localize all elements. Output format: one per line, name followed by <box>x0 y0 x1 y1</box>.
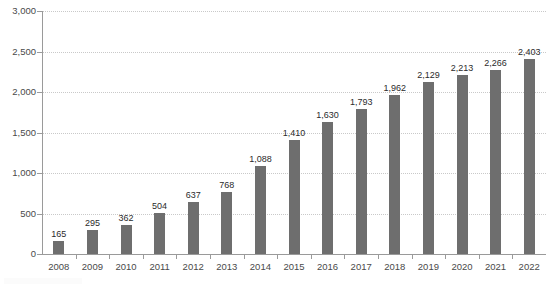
y-axis-tick-label: 2,500 <box>0 47 36 57</box>
bar-value-label: 2,403 <box>504 47 554 57</box>
y-axis-tick <box>37 52 42 53</box>
y-axis-tick <box>37 254 42 255</box>
bar-value-label: 1,962 <box>370 83 420 93</box>
y-axis-tick-label: 500 <box>0 209 36 219</box>
y-axis-tick <box>37 173 42 174</box>
gridline <box>42 92 546 93</box>
x-axis-tick <box>210 254 211 259</box>
bar[interactable] <box>457 75 468 254</box>
gridline <box>42 11 546 12</box>
y-axis-tick-label: 1,500 <box>0 128 36 138</box>
bar[interactable] <box>423 82 434 254</box>
y-axis-tick <box>37 214 42 215</box>
bar-value-label: 165 <box>34 229 84 239</box>
x-axis-tick <box>277 254 278 259</box>
bar-value-label: 768 <box>202 180 252 190</box>
x-axis-tick <box>479 254 480 259</box>
bar[interactable] <box>255 166 266 254</box>
bar[interactable] <box>389 95 400 254</box>
x-axis-tick <box>512 254 513 259</box>
bar[interactable] <box>289 140 300 254</box>
bar[interactable] <box>322 122 333 254</box>
y-axis-line <box>42 11 43 255</box>
x-axis-tick <box>412 254 413 259</box>
bar-value-label: 1,630 <box>303 110 353 120</box>
bar[interactable] <box>188 202 199 254</box>
bar[interactable] <box>490 70 501 254</box>
x-axis-tick <box>445 254 446 259</box>
bar-value-label: 504 <box>135 201 185 211</box>
bar[interactable] <box>524 59 535 254</box>
bar-value-label: 637 <box>168 190 218 200</box>
source-note-cropped <box>4 278 82 284</box>
bar[interactable] <box>53 241 64 254</box>
bar-value-label: 1,088 <box>235 154 285 164</box>
bar[interactable] <box>356 109 367 254</box>
x-axis-tick <box>378 254 379 259</box>
bar-chart: 05001,0001,5002,0002,5003,000 2008200920… <box>0 0 560 287</box>
y-axis-tick-label: 3,000 <box>0 6 36 16</box>
y-axis-tick-label: 2,000 <box>0 87 36 97</box>
x-axis-tick <box>176 254 177 259</box>
x-axis-tick <box>344 254 345 259</box>
bar-value-label: 362 <box>101 213 151 223</box>
y-axis-tick-label: 1,000 <box>0 168 36 178</box>
x-axis-tick <box>109 254 110 259</box>
bar[interactable] <box>221 192 232 254</box>
x-axis-tick <box>76 254 77 259</box>
bar-value-label: 2,266 <box>471 58 521 68</box>
y-axis-tick <box>37 11 42 12</box>
gridline <box>42 52 546 53</box>
y-axis-tick <box>37 92 42 93</box>
bar[interactable] <box>87 230 98 254</box>
x-axis-tick <box>143 254 144 259</box>
y-axis-tick-label: 0 <box>0 249 36 259</box>
bar[interactable] <box>121 225 132 254</box>
bar-value-label: 1,410 <box>269 128 319 138</box>
x-axis-line <box>42 254 546 255</box>
x-axis-tick <box>311 254 312 259</box>
bar-value-label: 1,793 <box>336 97 386 107</box>
x-axis-tick <box>244 254 245 259</box>
x-axis-tick-label: 2022 <box>509 261 549 272</box>
y-axis-tick <box>37 133 42 134</box>
bar[interactable] <box>154 213 165 254</box>
